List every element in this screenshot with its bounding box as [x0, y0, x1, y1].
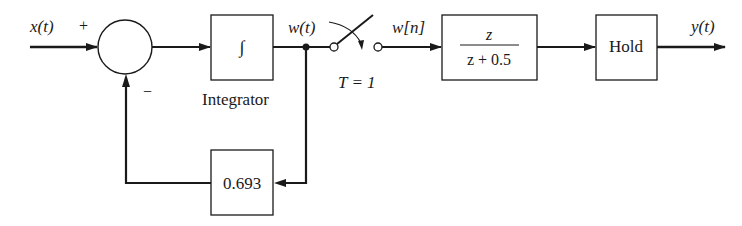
sampler-switch: [329, 15, 382, 51]
switch-arrow-icon: [358, 40, 364, 50]
input-label: x(t): [29, 17, 54, 36]
feedback-gain-label: 0.693: [223, 174, 261, 193]
discrete-filter-block: [442, 15, 537, 80]
filter-numerator: z: [485, 26, 493, 43]
hold-label: Hold: [609, 37, 644, 56]
minus-sign: −: [143, 83, 152, 100]
summing-junction: [98, 20, 152, 74]
output-label: y(t): [689, 17, 715, 36]
block-diagram: x(t) + − ∫ Integrator w(t) T = 1 w[n] z …: [0, 0, 742, 226]
discrete-signal-label: w[n]: [392, 18, 425, 37]
plus-sign: +: [79, 17, 88, 34]
continuous-signal-label: w(t): [288, 18, 316, 37]
filter-denominator: z + 0.5: [467, 51, 511, 68]
sampling-period-label: T = 1: [338, 73, 376, 92]
integrator-caption: Integrator: [202, 90, 269, 109]
